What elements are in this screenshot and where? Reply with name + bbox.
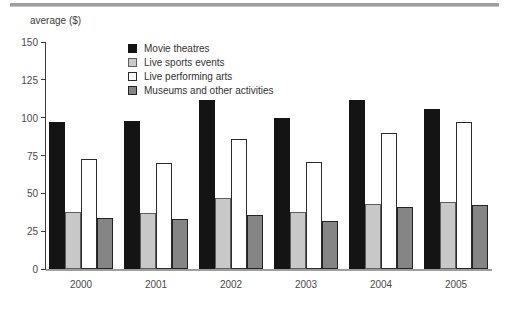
legend: Movie theatresLive sports eventsLive per… (128, 43, 274, 99)
bar-2000-series-1 (65, 212, 81, 270)
legend-item: Live sports events (128, 57, 274, 68)
bar-2001-series-0 (124, 121, 140, 269)
bar-2000-series-2 (81, 159, 97, 270)
y-tick-mark (41, 42, 46, 43)
x-tick-label: 2003 (274, 279, 338, 290)
y-tick-mark (41, 117, 46, 118)
x-tick-label: 2000 (49, 279, 113, 290)
x-axis-line (46, 269, 492, 271)
bar-2002-series-2 (231, 139, 247, 269)
legend-swatch-icon (128, 86, 137, 95)
bar-groups (49, 100, 488, 270)
legend-swatch-icon (128, 58, 137, 67)
legend-item: Movie theatres (128, 43, 274, 54)
bar-2001-series-2 (156, 163, 172, 269)
bar-2000-series-0 (49, 122, 65, 269)
bar-group-2004 (349, 100, 413, 270)
y-tick-label: 50 (4, 188, 38, 199)
y-tick-label: 100 (4, 113, 38, 124)
bar-2005-series-1 (440, 202, 456, 269)
x-tick-label: 2005 (424, 279, 488, 290)
x-tick-label: 2001 (124, 279, 188, 290)
bar-group-2001 (124, 121, 188, 269)
bar-2003-series-1 (290, 212, 306, 270)
bar-2000-series-3 (97, 218, 113, 270)
bar-2001-series-3 (172, 219, 188, 269)
x-axis-labels: 200020012002200320042005 (49, 279, 488, 290)
y-tick-label: 150 (4, 37, 38, 48)
bar-2004-series-0 (349, 100, 365, 270)
bar-chart-figure: average ($) 0255075100125150 Movie theat… (0, 0, 509, 310)
bar-2004-series-2 (381, 133, 397, 269)
plot-area: 0255075100125150 Movie theatresLive spor… (46, 42, 492, 269)
x-tick-label: 2004 (349, 279, 413, 290)
bar-2002-series-0 (199, 100, 215, 270)
y-tick-label: 125 (4, 75, 38, 86)
bar-2003-series-3 (322, 221, 338, 269)
bar-group-2000 (49, 122, 113, 269)
bar-2004-series-1 (365, 204, 381, 269)
legend-item: Museums and other activities (128, 85, 274, 96)
y-tick-label: 75 (4, 151, 38, 162)
legend-swatch-icon (128, 72, 137, 81)
y-tick-mark (41, 155, 46, 156)
y-tick-label: 25 (4, 226, 38, 237)
top-rule-divider (10, 3, 499, 7)
y-tick-mark (41, 79, 46, 80)
bar-2002-series-1 (215, 198, 231, 269)
y-axis-title: average ($) (30, 15, 81, 26)
y-tick-mark (41, 231, 46, 232)
bar-2005-series-3 (472, 205, 488, 269)
bar-2004-series-3 (397, 207, 413, 269)
bar-2005-series-0 (424, 109, 440, 269)
y-tick-mark (41, 193, 46, 194)
bar-2003-series-0 (274, 118, 290, 269)
bar-group-2005 (424, 109, 488, 269)
bar-group-2002 (199, 100, 263, 270)
legend-label: Museums and other activities (144, 85, 274, 96)
bar-2005-series-2 (456, 122, 472, 269)
y-tick-label: 0 (4, 264, 38, 275)
bar-group-2003 (274, 118, 338, 269)
legend-label: Live sports events (144, 57, 225, 68)
x-tick-label: 2002 (199, 279, 263, 290)
legend-label: Live performing arts (144, 71, 232, 82)
legend-label: Movie theatres (144, 43, 210, 54)
bar-2003-series-2 (306, 162, 322, 269)
legend-swatch-icon (128, 44, 137, 53)
bar-2002-series-3 (247, 215, 263, 270)
legend-item: Live performing arts (128, 71, 274, 82)
bar-2001-series-1 (140, 213, 156, 269)
